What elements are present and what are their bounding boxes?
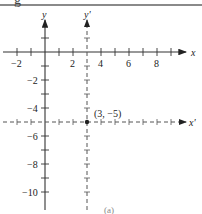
axes-svg: y y' x x' −2 2 4 6 8 −2 −4 −6 −8 −10 (3,… [0, 0, 202, 214]
coordinate-translation-figure: g [0, 0, 202, 214]
top-rule-divider [0, 4, 202, 6]
new-origin-point [85, 120, 89, 124]
y-prime-axis [84, 20, 90, 210]
y-tick-label: −8 [27, 159, 38, 170]
y-axis [41, 20, 49, 210]
x-tick-label: −2 [11, 58, 22, 69]
y-axis-label: y [41, 9, 47, 20]
new-origin-label: (3, −5) [94, 108, 121, 120]
x-tick-label: 4 [98, 58, 103, 69]
figure-caption: (a) [104, 205, 114, 214]
x-axis-label: x [190, 47, 196, 58]
x-tick-label: 2 [70, 58, 75, 69]
y-tick-label: −10 [22, 187, 38, 198]
x-axis [3, 48, 186, 56]
y-tick-label: −4 [27, 103, 38, 114]
x-tick-label: 8 [154, 58, 159, 69]
y-prime-axis-label: y' [83, 9, 91, 20]
y-tick-label: −2 [27, 75, 38, 86]
x-prime-axis-label: x' [188, 117, 196, 128]
y-tick-label: −6 [27, 131, 38, 142]
x-prime-axis [3, 119, 186, 125]
cropped-figure-title: g [14, 0, 21, 8]
x-tick-label: 6 [126, 58, 131, 69]
